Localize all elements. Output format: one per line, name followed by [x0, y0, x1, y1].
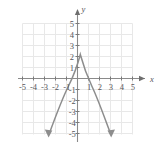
y-tick-label: -3 [69, 107, 76, 117]
x-tick-label: -2 [52, 82, 59, 92]
x-tick-label: 5 [131, 82, 135, 92]
y-tick-label: -2 [69, 96, 76, 106]
x-tick-label: -5 [19, 82, 26, 92]
coordinate-graph-figure: -5 -4 -3 -2 -1 1 2 3 4 5 5 4 3 2 1 -1 -2… [0, 0, 165, 148]
x-tick-label: 3 [109, 82, 113, 92]
y-tick-label: 2 [70, 52, 74, 62]
figure-background [0, 0, 165, 148]
y-tick-label: 3 [70, 41, 74, 51]
y-tick-label: -1 [69, 85, 76, 95]
x-tick-label: 2 [98, 82, 102, 92]
y-tick-label: 1 [70, 63, 74, 73]
x-tick-label: 1 [87, 82, 91, 92]
x-tick-label: -3 [41, 82, 48, 92]
x-tick-label: -4 [30, 82, 38, 92]
graph-canvas: -5 -4 -3 -2 -1 1 2 3 4 5 5 4 3 2 1 -1 -2… [0, 0, 165, 148]
y-tick-label: 5 [70, 19, 74, 29]
y-axis-label: y [81, 4, 86, 14]
y-tick-label: -5 [69, 129, 76, 139]
y-tick-label: -4 [69, 118, 77, 128]
x-tick-label: 4 [120, 82, 125, 92]
x-axis-label: x [149, 74, 154, 84]
